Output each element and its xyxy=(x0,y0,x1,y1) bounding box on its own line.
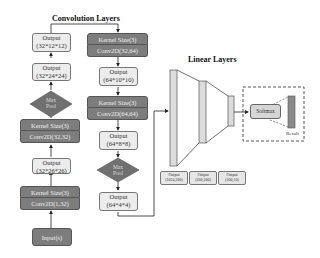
output-shape: (32*24*24) xyxy=(33,72,70,80)
conv2d-32-64-box: Conv2D(32,64) xyxy=(87,45,148,57)
conv2d-1-32-box: Conv2D(1,32) xyxy=(20,198,80,210)
output-shape: (64*10*10) xyxy=(100,76,137,84)
output-label: Output xyxy=(33,64,70,72)
max-pool-line2: Pool xyxy=(103,170,133,176)
output-label: Output xyxy=(33,34,70,42)
output-label: Output xyxy=(100,193,137,201)
conv2d-32-32-box: Conv2D(32,32) xyxy=(20,131,80,143)
output-32x24x24: Output (32*24*24) xyxy=(32,63,71,81)
output-64x10x10: Output (64*10*10) xyxy=(99,67,138,86)
output-shape: (64*8*8) xyxy=(100,140,137,148)
input-box: Input(s) xyxy=(32,228,72,246)
kernel-size-box: Kernel Size(3) xyxy=(87,33,148,45)
kernel-size-box: Kernel Size(3) xyxy=(20,186,80,198)
output-shape: (200,10) xyxy=(219,177,245,182)
conv2d-64-64-box: Conv2D(64,64) xyxy=(87,108,148,120)
output-32x12x12: Output (32*12*12) xyxy=(32,33,71,52)
output-label: Output xyxy=(100,68,137,76)
output-label: Output xyxy=(100,132,137,140)
linear-output-3: Output (200,10) xyxy=(218,171,246,185)
output-64x8x8: Output (64*8*8) xyxy=(99,131,138,150)
output-label: Output xyxy=(33,159,70,167)
output-32x26x26: Output (32*26*26) xyxy=(32,158,71,174)
linear-layers-title: Linear Layers xyxy=(188,55,237,64)
kernel-size-box: Kernel Size(3) xyxy=(87,96,148,108)
output-64x4x4: Output (64*4*4) xyxy=(99,192,138,211)
output-shape: (32*12*12) xyxy=(33,42,70,50)
linear-output-2: Output (200,200) xyxy=(189,171,217,185)
convolution-layers-title: Convolution Layers xyxy=(52,14,120,23)
max-pool-left: Max Pool xyxy=(36,97,66,109)
max-pool-line2: Pool xyxy=(36,103,66,109)
max-pool-right: Max Pool xyxy=(103,164,133,176)
output-shape: (64*4*4) xyxy=(100,201,137,209)
result-label: Result xyxy=(286,131,299,136)
linear-output-1: Output (1024,200) xyxy=(160,171,188,185)
softmax-box: Softmax xyxy=(250,104,281,119)
output-shape: (200,200) xyxy=(190,177,216,182)
kernel-size-box: Kernel Size(3) xyxy=(20,119,80,131)
output-shape: (1024,200) xyxy=(161,177,187,182)
output-shape: (32*26*26) xyxy=(33,167,70,175)
